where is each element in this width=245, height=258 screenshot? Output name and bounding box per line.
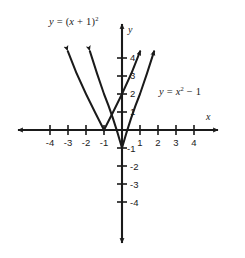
x-tick-label--3: -3	[64, 137, 72, 148]
label-standard-parabola: y = x2 − 1	[159, 86, 201, 97]
x-tick-label-4: 4	[191, 137, 196, 148]
graph-figure: -4 -3 -2 -1 1 2 3 4 4 3 2 1 -1 -2 -3 -4 …	[0, 0, 245, 258]
x-tick-label-2: 2	[155, 137, 160, 148]
y-tick-label--3: -3	[130, 179, 138, 190]
x-tick-label-1: 1	[137, 137, 142, 148]
y-axis-label: y	[127, 24, 133, 35]
label-standard-eq: =	[164, 86, 176, 97]
x-axis-label: x	[205, 111, 211, 122]
y-tick-label--2: -2	[130, 161, 138, 172]
x-tick-label--4: -4	[46, 137, 54, 148]
label-standard-rest: − 1	[184, 86, 201, 97]
x-tick-label-3: 3	[173, 137, 178, 148]
y-tick-label-2: 2	[130, 88, 135, 99]
y-tick-label--1: -1	[127, 143, 135, 154]
label-shifted-rest: + 1)	[74, 16, 95, 27]
y-tick-label-4: 4	[130, 52, 135, 63]
label-shifted-exponent: 2	[95, 15, 98, 22]
x-tick-label--2: -2	[82, 137, 90, 148]
label-shifted-parabola: y = (x + 1)2	[49, 16, 99, 27]
x-tick-label--1: -1	[100, 137, 108, 148]
coordinate-plane-svg: -4 -3 -2 -1 1 2 3 4 4 3 2 1 -1 -2 -3 -4 …	[0, 0, 245, 258]
label-shifted-eq: = (	[54, 16, 69, 27]
y-tick-label--4: -4	[130, 197, 138, 208]
